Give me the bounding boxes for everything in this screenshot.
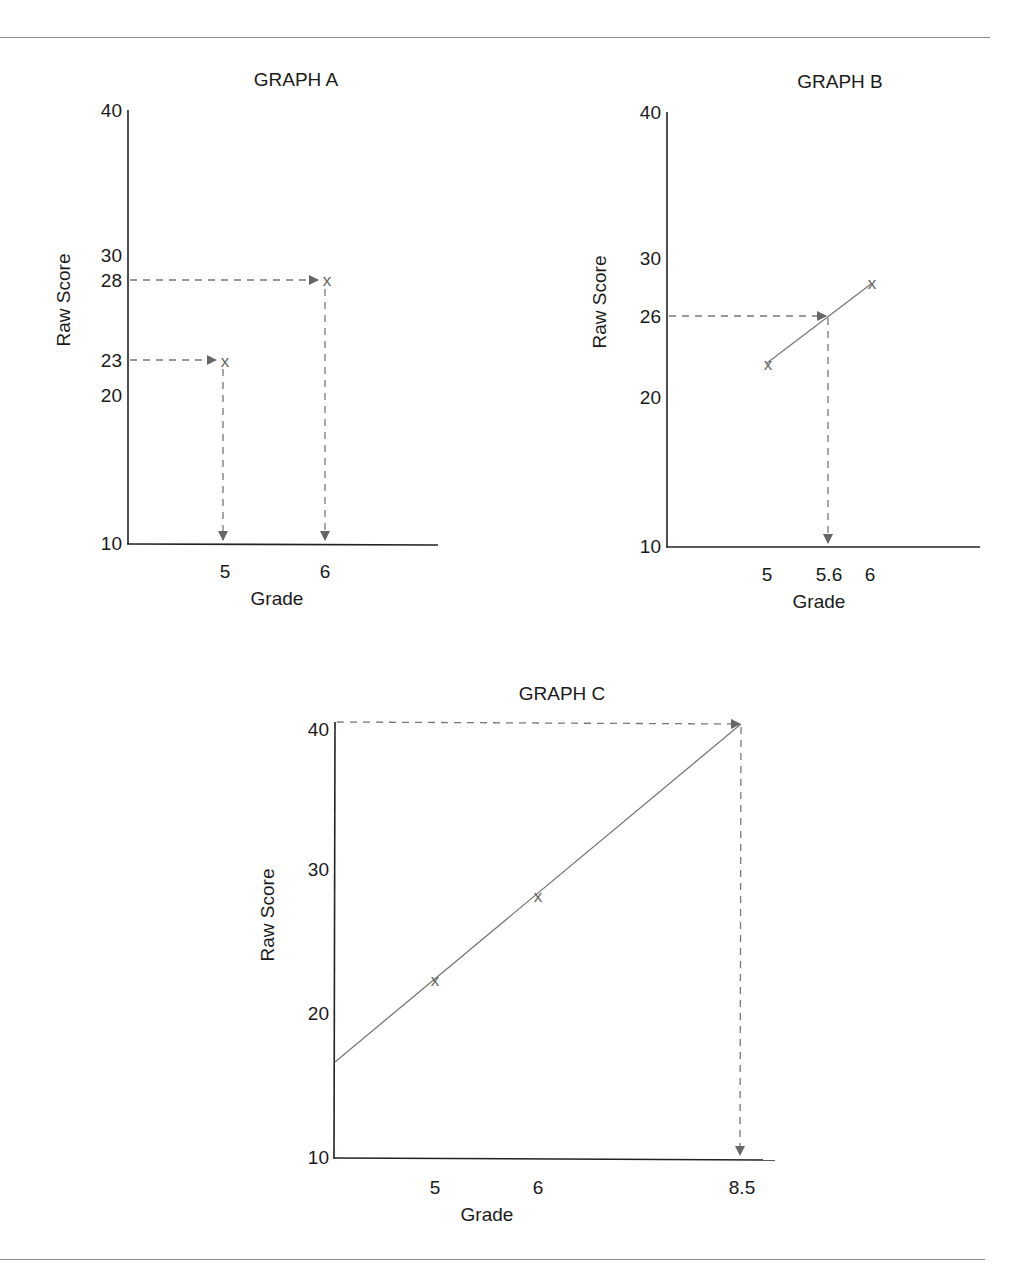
graph-a-point-6-28: x xyxy=(323,271,332,290)
graph-a-point-5-23: x xyxy=(221,352,230,371)
graph-b-ytick-10: 10 xyxy=(640,536,661,557)
graph-c-ytick-10: 10 xyxy=(308,1147,329,1168)
graph-a-xtick-6: 6 xyxy=(320,561,331,582)
graph-a-ytick-23: 23 xyxy=(101,350,122,371)
graph-a-ytick-40: 40 xyxy=(101,100,122,121)
graph-b-xtick-5: 5 xyxy=(762,564,773,585)
graph-b-xtick-5-6: 5.6 xyxy=(816,564,842,585)
graph-b-xtick-6: 6 xyxy=(865,564,876,585)
graph-c-y-label: Raw Score xyxy=(257,869,278,962)
graph-b-title: GRAPH B xyxy=(797,71,883,92)
graph-a-y-label: Raw Score xyxy=(53,254,74,347)
graph-b-y-label: Raw Score xyxy=(589,256,610,349)
graph-c-xtick-5: 5 xyxy=(430,1177,441,1198)
graph-b: GRAPH B 40 30 26 20 10 5 5.6 6 Grade Raw… xyxy=(589,71,980,612)
graph-c-xtick-8-5: 8.5 xyxy=(729,1177,755,1198)
graph-b-ytick-30: 30 xyxy=(640,248,661,269)
graph-a-ytick-28: 28 xyxy=(101,270,122,291)
graph-c-point-5: x xyxy=(431,971,440,990)
graph-a-x-label: Grade xyxy=(251,588,304,609)
graph-c-guide-grade-8-5 xyxy=(740,727,741,1155)
graphs-canvas: GRAPH A 40 30 28 23 20 10 5 6 Grade Raw … xyxy=(0,0,1019,1280)
graph-a-xtick-5: 5 xyxy=(220,561,231,582)
graph-b-point-5: x xyxy=(764,355,773,374)
graph-b-ytick-26: 26 xyxy=(640,306,661,327)
graph-a-ytick-30: 30 xyxy=(101,245,122,266)
graph-c-xtick-6: 6 xyxy=(533,1177,544,1198)
graph-c-x-label: Grade xyxy=(461,1204,514,1225)
graph-a-ytick-10: 10 xyxy=(101,533,122,554)
graph-b-point-6: x xyxy=(868,274,877,293)
graph-c: GRAPH C 40 30 20 10 5 6 8.5 Grade Raw Sc… xyxy=(257,683,775,1225)
graph-c-point-6: x xyxy=(534,887,543,906)
graph-c-y-axis xyxy=(334,722,335,1159)
graph-c-guide-40 xyxy=(337,722,740,724)
graph-a-x-axis xyxy=(127,544,438,545)
graph-b-ytick-20: 20 xyxy=(640,387,661,408)
graph-a: GRAPH A 40 30 28 23 20 10 5 6 Grade Raw … xyxy=(53,69,438,609)
graph-a-ytick-20: 20 xyxy=(101,385,122,406)
graph-a-title: GRAPH A xyxy=(254,69,339,90)
graph-b-ytick-40: 40 xyxy=(640,102,661,123)
graph-c-ytick-30: 30 xyxy=(308,859,329,880)
graph-c-title: GRAPH C xyxy=(519,683,606,704)
graph-c-ytick-20: 20 xyxy=(308,1003,329,1024)
graph-c-ytick-40: 40 xyxy=(308,719,329,740)
graph-b-connecting-line xyxy=(767,284,871,363)
graph-c-x-axis xyxy=(334,1158,775,1160)
graph-b-x-label: Grade xyxy=(793,591,846,612)
